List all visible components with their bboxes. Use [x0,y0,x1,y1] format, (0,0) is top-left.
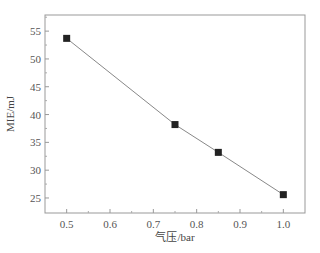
data-markers [63,35,287,198]
x-tick-label: 0.7 [146,218,160,230]
y-tick-label: 40 [30,109,42,121]
y-tick-label: 25 [30,192,42,204]
data-point-marker [63,35,70,42]
x-axis-ticks: 0.50.60.70.80.91.0 [60,209,291,230]
chart-svg: 25303540455055 0.50.60.70.80.91.0 气压/bar… [0,0,320,253]
data-point-marker [215,149,222,156]
series-line [67,38,284,194]
x-axis-label: 气压/bar [155,230,194,243]
y-tick-label: 55 [30,25,42,37]
y-axis-label: MIE/mJ [4,95,16,132]
x-tick-label: 0.9 [233,218,247,230]
x-tick-label: 0.5 [60,218,74,230]
y-tick-label: 45 [30,81,42,93]
data-point-marker [172,121,179,128]
x-tick-label: 0.6 [103,218,117,230]
y-tick-label: 35 [30,136,42,148]
y-axis-ticks: 25303540455055 [30,17,49,204]
x-tick-label: 0.8 [190,218,204,230]
data-point-marker [280,191,287,198]
y-tick-label: 30 [30,164,42,176]
y-tick-label: 50 [30,53,42,65]
x-tick-label: 1.0 [276,218,290,230]
